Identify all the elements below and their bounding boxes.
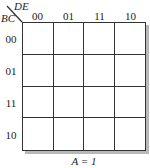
kmap-cell (84, 118, 115, 150)
kmap-cell (84, 87, 115, 119)
kmap-cell (115, 87, 146, 119)
kmap-cell (115, 23, 146, 55)
row-header: 00 (3, 33, 19, 45)
kmap-cell (23, 87, 54, 119)
row-variable-label: BC (1, 13, 15, 24)
kmap-cell (23, 55, 54, 87)
kmap-cell (54, 87, 85, 119)
kmap-cell (23, 23, 54, 55)
kmap-cell (23, 118, 54, 150)
row-header: 10 (3, 129, 19, 141)
kmap-cell (54, 118, 85, 150)
row-header: 11 (3, 97, 19, 109)
kmap-cell (115, 118, 146, 150)
map-caption: A = 1 (22, 155, 146, 167)
kmap-cell (54, 55, 85, 87)
karnaugh-map-grid (22, 22, 146, 151)
kmap-cell (84, 23, 115, 55)
row-header: 01 (3, 65, 19, 77)
column-header: 11 (84, 10, 115, 22)
kmap-cell (84, 55, 115, 87)
column-header: 10 (115, 10, 146, 22)
kmap-cell (115, 55, 146, 87)
column-header: 00 (22, 10, 53, 22)
kmap-cell (54, 23, 85, 55)
column-header: 01 (53, 10, 84, 22)
